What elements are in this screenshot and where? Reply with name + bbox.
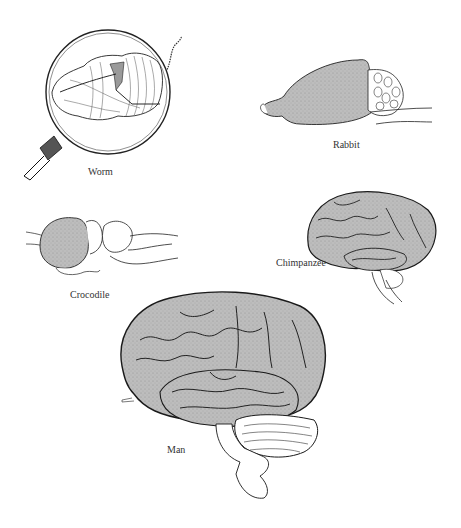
crocodile-brain-drawing xyxy=(26,218,178,275)
chimpanzee-brain-drawing xyxy=(308,192,436,304)
rabbit-brain-drawing xyxy=(261,60,432,125)
label-worm: Worm xyxy=(88,166,113,177)
magnifier-handle-icon xyxy=(24,136,62,180)
worm-drawing xyxy=(24,30,181,180)
label-rabbit: Rabbit xyxy=(333,139,360,150)
label-chimpanzee: Chimpanzee xyxy=(276,257,326,268)
label-crocodile: Crocodile xyxy=(70,289,109,300)
label-man: Man xyxy=(167,444,185,455)
illustration-canvas xyxy=(0,0,461,528)
human-brain-drawing xyxy=(121,292,325,498)
